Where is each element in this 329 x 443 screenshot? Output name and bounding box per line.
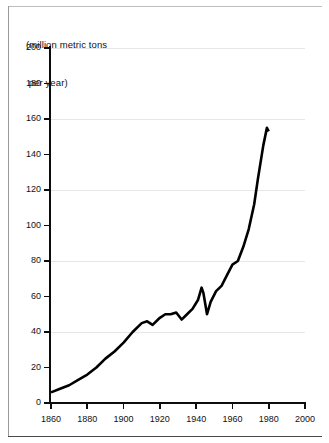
x-tick-1920 [159, 403, 161, 409]
y-tick-40 [44, 331, 49, 333]
y-tick-20 [44, 367, 49, 369]
y-axis-line [49, 46, 51, 404]
x-tick-label-1860: 1860 [31, 414, 71, 424]
gridline-y-200 [51, 48, 305, 49]
x-tick-2000 [304, 403, 306, 409]
y-tick-label-200: 200 [11, 42, 41, 52]
y-tick-label-120: 120 [11, 184, 41, 194]
y-axis-tick-labels: 020406080100120140160180200 [8, 0, 41, 443]
y-tick-label-20: 20 [11, 362, 41, 372]
figure-top-rule [8, 6, 322, 7]
x-tick-1860 [50, 403, 52, 409]
y-tick-200 [44, 47, 49, 49]
x-tick-1900 [123, 403, 125, 409]
y-tick-160 [44, 118, 49, 120]
y-tick-label-160: 160 [11, 113, 41, 123]
y-tick-60 [44, 296, 49, 298]
figure-bottom-rule [8, 436, 322, 437]
x-tick-label-1980: 1980 [249, 414, 289, 424]
chart-gridlines [51, 48, 305, 403]
y-tick-80 [44, 260, 49, 262]
gridline-y-80 [51, 261, 305, 262]
y-tick-180 [44, 83, 49, 85]
x-tick-label-1900: 1900 [104, 414, 144, 424]
y-tick-label-0: 0 [11, 397, 41, 407]
y-tick-label-80: 80 [11, 255, 41, 265]
figure-container: (million metric tons per year) 020406080… [0, 0, 329, 443]
x-tick-1940 [195, 403, 197, 409]
y-tick-0 [44, 402, 49, 404]
y-tick-140 [44, 154, 49, 156]
gridline-y-160 [51, 119, 305, 120]
gridline-y-40 [51, 332, 305, 333]
x-tick-label-1940: 1940 [176, 414, 216, 424]
x-tick-1960 [232, 403, 234, 409]
y-tick-label-60: 60 [11, 291, 41, 301]
x-tick-label-1960: 1960 [212, 414, 252, 424]
y-tick-120 [44, 189, 49, 191]
y-tick-100 [44, 225, 49, 227]
x-tick-1980 [268, 403, 270, 409]
y-tick-label-180: 180 [11, 78, 41, 88]
gridline-y-120 [51, 190, 305, 191]
x-tick-label-2000: 2000 [285, 414, 325, 424]
y-tick-label-100: 100 [11, 220, 41, 230]
x-tick-1880 [86, 403, 88, 409]
y-tick-label-140: 140 [11, 149, 41, 159]
y-tick-label-40: 40 [11, 326, 41, 336]
x-tick-label-1880: 1880 [67, 414, 107, 424]
x-tick-label-1920: 1920 [140, 414, 180, 424]
